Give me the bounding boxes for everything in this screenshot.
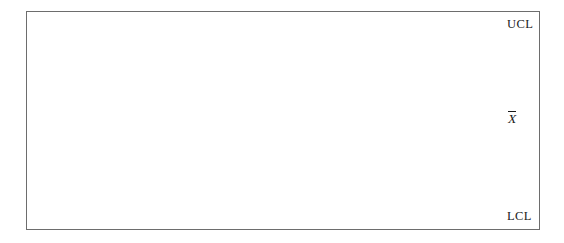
x-bar-letter: X xyxy=(508,111,517,126)
control-chart-figure: UCL X LCL xyxy=(0,0,564,243)
chart-border-frame xyxy=(26,11,540,230)
x-bar-symbol: X xyxy=(508,112,517,126)
overbar-decoration xyxy=(508,111,516,112)
upper-control-limit-label: UCL xyxy=(507,18,533,31)
center-line-label: X xyxy=(508,112,517,126)
lower-control-limit-label: LCL xyxy=(507,210,532,223)
